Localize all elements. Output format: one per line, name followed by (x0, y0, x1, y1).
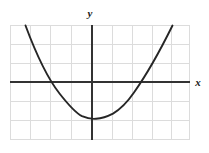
graph-figure: y x (0, 0, 209, 153)
coordinate-plane-svg: y x (0, 0, 209, 153)
y-axis-label: y (86, 7, 93, 19)
x-axis-label: x (194, 76, 201, 88)
